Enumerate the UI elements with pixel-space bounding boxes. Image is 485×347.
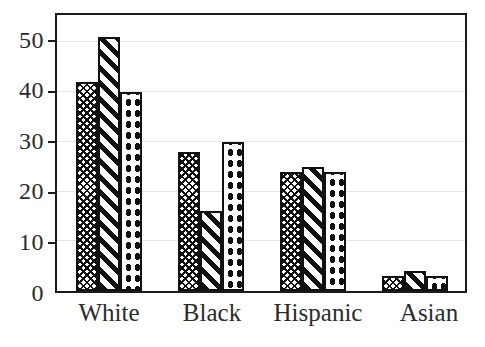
bar-white-series-1 [76, 82, 98, 291]
y-axis-tick-label: 40 [4, 78, 44, 102]
y-axis-tick-label: 20 [4, 179, 44, 203]
bar-asian-series-2 [404, 271, 426, 291]
bar-black-series-2 [200, 211, 222, 291]
x-axis-label-hispanic: Hispanic [252, 300, 384, 325]
y-axis-tick-label: 30 [4, 129, 44, 153]
y-axis-tick-label: 0 [4, 281, 44, 305]
bar-white-series-3 [120, 92, 142, 291]
bar-black-series-3 [222, 142, 244, 291]
bar-asian-series-3 [426, 276, 448, 291]
bar-asian-series-1 [382, 276, 404, 291]
x-axis-label-white: White [53, 300, 165, 325]
y-axis-tick-label: 10 [4, 230, 44, 254]
bar-white-series-2 [98, 37, 120, 291]
bar-black-series-1 [178, 152, 200, 291]
plot-frame [55, 13, 467, 293]
y-axis-tick-label: 50 [4, 28, 44, 52]
bar-hispanic-series-2 [302, 167, 324, 291]
bar-hispanic-series-1 [280, 172, 302, 291]
bar-hispanic-series-3 [324, 172, 346, 291]
bar-chart-figure: 50 40 30 20 10 0 White Black Hispanic As… [0, 0, 485, 347]
plot-area [57, 15, 465, 291]
x-axis-label-asian: Asian [373, 300, 485, 325]
